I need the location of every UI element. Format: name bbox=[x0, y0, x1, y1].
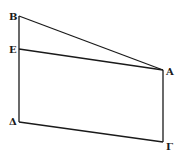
label-Gamma: Γ bbox=[166, 141, 173, 152]
label-B: B bbox=[9, 11, 17, 22]
label-A: A bbox=[165, 66, 174, 77]
label-E: E bbox=[9, 44, 17, 55]
geometry-diagram: B E A Δ Γ bbox=[0, 0, 184, 155]
segment-BA bbox=[19, 16, 163, 70]
segment-DeltaGamma bbox=[19, 122, 163, 142]
segment-EA bbox=[19, 49, 163, 70]
label-Delta: Δ bbox=[9, 116, 17, 127]
